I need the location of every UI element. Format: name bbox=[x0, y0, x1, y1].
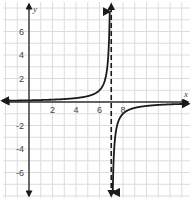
y-tick-label: -6 bbox=[16, 168, 24, 178]
x-axis-label: x bbox=[183, 89, 188, 99]
y-tick-label: 4 bbox=[19, 50, 24, 60]
x-tick-label: 8 bbox=[120, 105, 125, 115]
x-tick-label: 2 bbox=[50, 105, 55, 115]
graph: xy2468642-2-4-6 bbox=[0, 0, 192, 207]
y-tick-label: -4 bbox=[16, 144, 24, 154]
y-tick-label: 6 bbox=[19, 27, 24, 37]
right-branch-curve bbox=[113, 104, 189, 193]
y-axis-label: y bbox=[32, 4, 37, 14]
y-tick-label: 2 bbox=[19, 74, 24, 84]
y-tick-label: -2 bbox=[16, 121, 24, 131]
x-tick-label: 4 bbox=[73, 105, 78, 115]
x-tick-label: 6 bbox=[97, 105, 102, 115]
